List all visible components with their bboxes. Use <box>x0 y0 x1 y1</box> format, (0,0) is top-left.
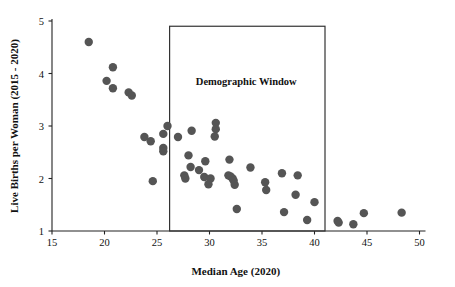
data-point <box>163 122 171 130</box>
data-points-group <box>85 38 406 229</box>
data-point <box>231 181 239 189</box>
y-tick-label: 1 <box>39 226 44 237</box>
demographic-window-label: Demographic Window <box>196 76 297 87</box>
data-point <box>128 91 136 99</box>
data-point <box>201 157 209 165</box>
y-tick-label: 5 <box>39 16 44 27</box>
data-point <box>233 205 241 213</box>
data-point <box>303 216 311 224</box>
data-point <box>278 169 286 177</box>
data-point <box>109 63 117 71</box>
data-point <box>109 84 117 92</box>
chart-layers: 123451520253035404550Demographic WindowM… <box>8 16 426 278</box>
data-point <box>280 208 288 216</box>
x-tick-label: 35 <box>257 237 268 248</box>
data-point <box>147 137 155 145</box>
data-point <box>102 77 110 85</box>
data-point <box>225 155 233 163</box>
data-point <box>186 163 194 171</box>
data-point <box>397 208 405 216</box>
data-point <box>294 171 302 179</box>
data-point <box>360 209 368 217</box>
x-tick-label: 15 <box>47 237 58 248</box>
data-point <box>159 147 167 155</box>
x-tick-label: 45 <box>362 237 373 248</box>
data-point <box>262 186 270 194</box>
data-point <box>149 177 157 185</box>
y-axis-title: Live Births per Woman (2015 - 2020) <box>8 39 21 213</box>
data-point <box>181 174 189 182</box>
data-point <box>291 191 299 199</box>
x-tick-label: 25 <box>152 237 163 248</box>
y-tick-label: 4 <box>39 69 45 80</box>
data-point <box>174 133 182 141</box>
data-point <box>159 130 167 138</box>
data-point <box>334 218 342 226</box>
data-point <box>246 163 254 171</box>
data-point <box>195 166 203 174</box>
plot-area: 123451520253035404550Demographic WindowM… <box>0 0 455 287</box>
x-tick-label: 30 <box>204 237 215 248</box>
data-point <box>211 132 219 140</box>
data-point <box>261 178 269 186</box>
x-tick-label: 50 <box>414 237 425 248</box>
data-point <box>212 125 220 133</box>
data-point <box>349 220 357 228</box>
x-tick-label: 20 <box>99 237 110 248</box>
scatter-chart-figure: 123451520253035404550Demographic WindowM… <box>0 0 455 287</box>
x-axis-title: Median Age (2020) <box>191 265 280 278</box>
y-tick-label: 2 <box>39 174 44 185</box>
data-point <box>310 198 318 206</box>
data-point <box>187 127 195 135</box>
data-point <box>85 38 93 46</box>
x-tick-label: 40 <box>309 237 320 248</box>
data-point <box>204 180 212 188</box>
data-point <box>184 151 192 159</box>
y-tick-label: 3 <box>39 121 44 132</box>
